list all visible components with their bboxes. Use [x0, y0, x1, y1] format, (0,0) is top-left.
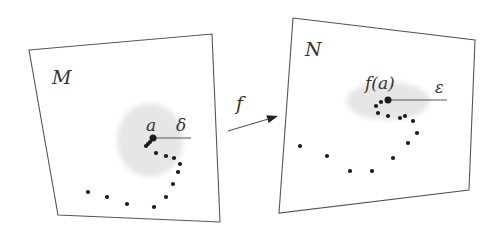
sequence-point	[398, 116, 402, 120]
diagram-svg	[0, 0, 502, 230]
sequence-point	[325, 154, 329, 158]
sequence-point	[144, 144, 148, 148]
sequence-point	[178, 162, 182, 166]
sequence-point	[125, 202, 129, 206]
sequence-point	[154, 151, 158, 155]
sequence-point	[415, 131, 419, 135]
manifold-n-label: N	[305, 40, 322, 59]
sequence-point	[172, 156, 176, 160]
sequence-point	[105, 195, 109, 199]
point-a-label: a	[146, 117, 156, 134]
sequence-point	[386, 114, 390, 118]
sequence-point	[376, 111, 380, 115]
sequence-point	[379, 100, 383, 104]
point-f-a-label: f(a)	[365, 75, 395, 92]
manifold-m-label: M	[52, 68, 71, 87]
sequence-point	[403, 114, 407, 118]
arrow-shaft	[228, 119, 267, 131]
epsilon-label: ε	[435, 80, 444, 96]
delta-label: δ	[176, 117, 186, 134]
sequence-point	[406, 141, 410, 145]
sequence-point	[171, 182, 175, 186]
map-f-label: f	[236, 94, 243, 113]
sequence-point	[176, 170, 180, 174]
sequence-point	[152, 205, 156, 209]
sequence-point	[348, 169, 352, 173]
sequence-point	[164, 154, 168, 158]
manifold-m	[29, 34, 220, 222]
sequence-point	[86, 190, 90, 194]
diagram-canvas: M a δ N f(a) ε f	[0, 0, 502, 230]
point-a	[150, 135, 157, 142]
sequence-point	[164, 195, 168, 199]
point-f-a	[385, 97, 392, 104]
sequence-point	[374, 104, 378, 108]
sequence-point	[370, 169, 374, 173]
map-arrow	[228, 115, 278, 131]
sequence-point	[411, 119, 415, 123]
sequence-point	[298, 144, 302, 148]
sequence-point	[391, 156, 395, 160]
arrow-head-icon	[266, 115, 278, 123]
